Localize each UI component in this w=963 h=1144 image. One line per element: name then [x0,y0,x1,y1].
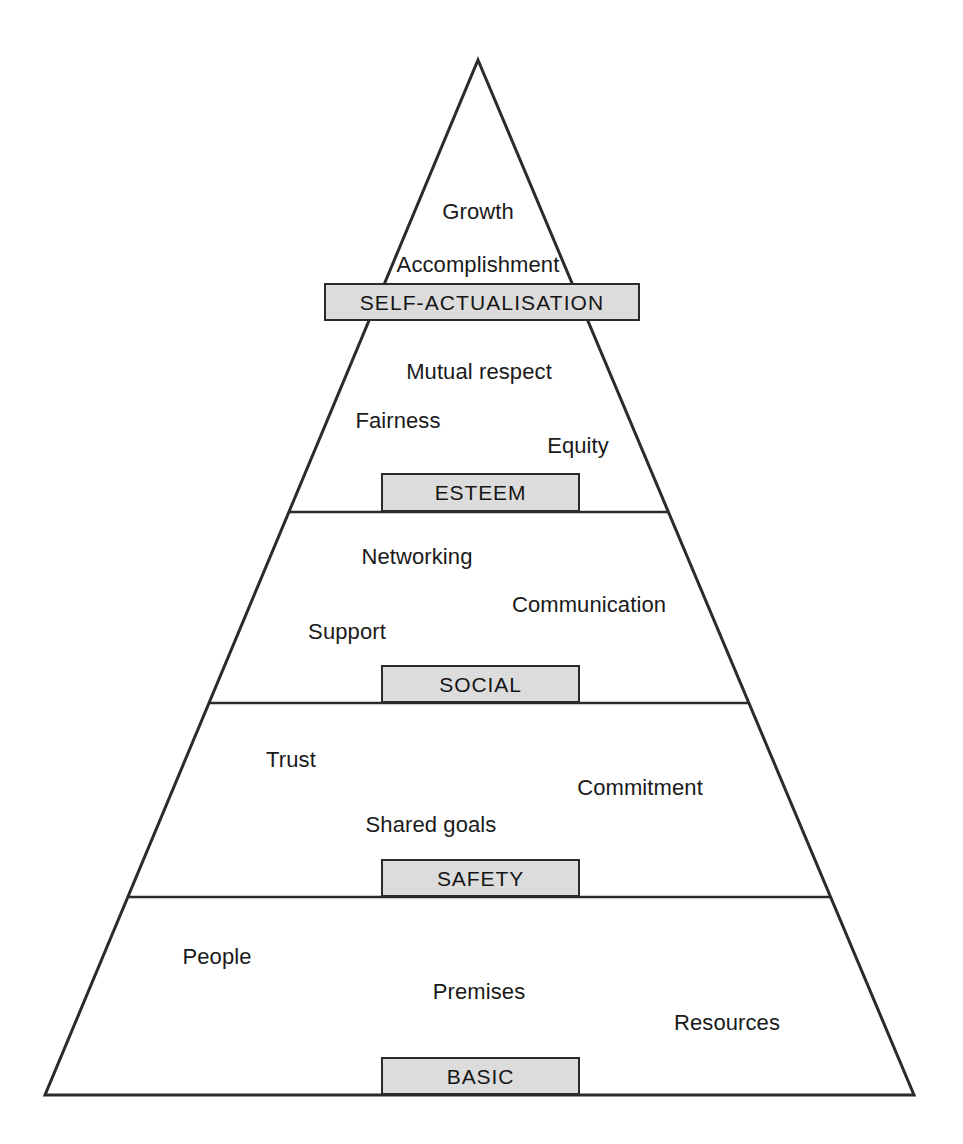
keyword-equity: Equity [547,435,609,457]
keyword-fairness: Fairness [355,410,440,432]
pyramid-diagram: Growth Accomplishment SELF-ACTUALISATION… [0,0,963,1144]
keyword-communication: Communication [512,594,666,616]
keyword-accomplishment: Accomplishment [397,254,560,276]
pyramid-outline-svg [0,0,963,1144]
tier-label-self-actualisation: SELF-ACTUALISATION [360,292,605,313]
keyword-shared-goals: Shared goals [366,814,497,836]
keyword-people: People [182,946,251,968]
tier-box-self-actualisation[interactable]: SELF-ACTUALISATION [324,283,640,321]
keyword-resources: Resources [674,1012,780,1034]
tier-label-esteem: ESTEEM [435,482,527,503]
keyword-mutual-respect: Mutual respect [406,361,552,383]
tier-label-basic: BASIC [447,1066,515,1087]
tier-box-social[interactable]: SOCIAL [381,665,580,703]
tier-box-esteem[interactable]: ESTEEM [381,473,580,512]
keyword-premises: Premises [433,981,526,1003]
keyword-support: Support [308,621,386,643]
keyword-growth: Growth [442,201,514,223]
keyword-trust: Trust [266,749,316,771]
tier-box-basic[interactable]: BASIC [381,1057,580,1095]
keyword-networking: Networking [361,546,472,568]
keyword-commitment: Commitment [577,777,703,799]
tier-label-safety: SAFETY [437,868,524,889]
tier-box-safety[interactable]: SAFETY [381,859,580,897]
tier-label-social: SOCIAL [439,674,521,695]
